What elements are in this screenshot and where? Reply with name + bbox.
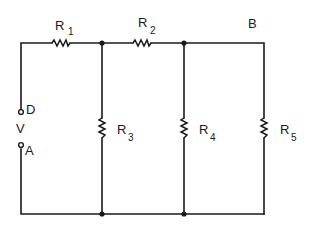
terminal-a (19, 143, 24, 148)
resistor-r2 (133, 40, 151, 46)
label-terminal-a: A (25, 143, 34, 158)
label-r5-sub: 5 (291, 132, 297, 143)
label-source-v: V (16, 121, 25, 136)
label-r5: R (280, 122, 289, 137)
label-r1-sub: 1 (68, 26, 74, 37)
top-wire (21, 43, 264, 118)
bottom-wire (21, 149, 264, 214)
circuit-diagram: R 1 R 2 B R 3 R 4 R 5 D V A (0, 0, 313, 231)
label-r4: R (199, 122, 208, 137)
label-r2: R (138, 15, 147, 30)
junction-r1-r3 (99, 40, 104, 45)
label-r3-sub: 3 (128, 132, 134, 143)
label-r1: R (55, 18, 64, 33)
label-node-b: B (248, 16, 257, 31)
junction-dots (99, 40, 186, 216)
resistor-r1 (52, 40, 70, 46)
junction-bottom-r4 (181, 211, 186, 216)
resistor-r5 (261, 118, 267, 214)
resistor-r3 (99, 43, 105, 214)
label-r2-sub: 2 (150, 25, 156, 36)
label-r3: R (117, 122, 126, 137)
label-terminal-d: D (26, 102, 35, 117)
junction-r2-r4 (181, 40, 186, 45)
resistor-r4 (181, 43, 187, 214)
junction-bottom-r3 (99, 211, 104, 216)
terminal-d (19, 110, 24, 115)
label-r4-sub: 4 (210, 132, 216, 143)
